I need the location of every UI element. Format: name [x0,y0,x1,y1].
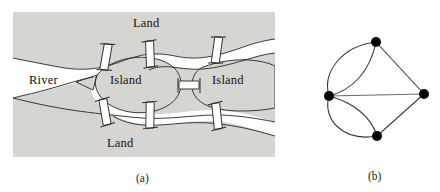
edge-top-right [376,42,424,94]
edge-left-bottom-inner [329,96,377,136]
graph-node-bottom [372,131,382,141]
map-panel: Land Land River Island Island [13,12,275,157]
map-label-river: River [29,73,58,88]
graph-node-top [371,37,381,47]
figure-root: Land Land River Island Island [0,0,440,192]
caption-panel-b: (b) [368,170,381,182]
edge-left-top-inner [329,42,376,96]
map-label-island-right: Island [212,73,244,88]
graph-node-left [324,91,334,101]
map-label-land-bottom: Land [107,136,133,151]
edge-left-right [329,94,424,96]
edge-bottom-right [377,94,424,136]
graph-panel [300,22,438,154]
edge-left-bottom-outer [328,96,377,137]
multigraph-illustration [300,22,438,154]
map-label-land-top: Land [133,16,159,31]
map-label-island-left: Island [110,73,142,88]
graph-node-right [419,89,429,99]
edge-left-top-outer [328,42,376,96]
caption-panel-a: (a) [136,172,149,184]
